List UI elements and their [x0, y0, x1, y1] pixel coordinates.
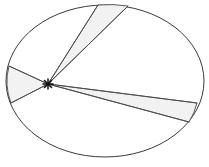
figure-canvas [0, 0, 209, 167]
ellipse-sector-figure [0, 0, 209, 167]
vertex-marker [43, 79, 53, 89]
